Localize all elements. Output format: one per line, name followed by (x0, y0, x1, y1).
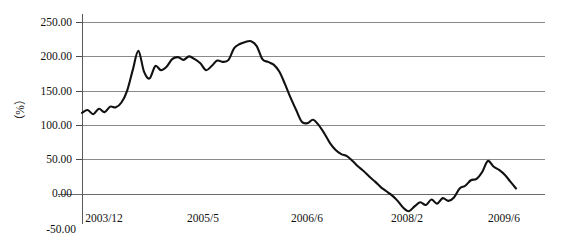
y-tick-label-neg50: -50.00 (46, 223, 76, 235)
y-tick-label-50: 50.00 (46, 153, 72, 165)
y-axis (76, 14, 82, 224)
x-tick-label-2005-5: 2005/5 (187, 212, 219, 224)
y-tick-label-200: 200.00 (40, 50, 72, 62)
line-chart: 250.00 200.00 150.00 100.00 50.00 0.00 -… (0, 0, 570, 244)
data-series-group (82, 41, 516, 211)
x-tick-label-2009-6: 2009/6 (488, 212, 520, 224)
chart-container: 250.00 200.00 150.00 100.00 50.00 0.00 -… (0, 0, 570, 244)
x-tick-label-2006-6: 2006/6 (291, 212, 323, 224)
y-axis-title: （%） (14, 94, 26, 126)
x-tick-label-2003-12: 2003/12 (85, 212, 123, 224)
data-line-growth-rate (82, 41, 516, 211)
y-tick-label-150: 150.00 (40, 85, 72, 97)
y-axis-title-group: （%） (14, 94, 26, 126)
y-tick-label-100: 100.00 (40, 119, 72, 131)
x-tick-label-2008-2: 2008/2 (391, 212, 423, 224)
y-tick-labels: 250.00 200.00 150.00 100.00 50.00 0.00 -… (40, 16, 76, 235)
x-tick-labels: 2003/12 2005/5 2006/6 2008/2 2009/6 (85, 212, 520, 224)
y-tick-label-0: 0.00 (52, 187, 72, 199)
gridlines (58, 22, 545, 194)
y-tick-label-250: 250.00 (40, 16, 72, 28)
